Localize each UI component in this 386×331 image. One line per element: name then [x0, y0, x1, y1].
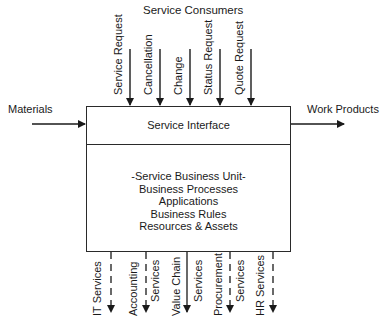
unit-line-applications: Applications	[87, 195, 290, 208]
service-business-unit-diagram: Service Consumers Materials Work Product…	[0, 0, 386, 331]
change-label: Change	[172, 56, 184, 95]
service-business-unit-box: Service Interface -Service Business Unit…	[86, 106, 291, 252]
work-products-label: Work Products	[307, 103, 379, 115]
hr-services-label: HR Services	[254, 255, 266, 316]
unit-line-title: -Service Business Unit-	[87, 170, 290, 183]
materials-label: Materials	[8, 103, 53, 115]
unit-line-rules: Business Rules	[87, 208, 290, 221]
business-unit-contents: -Service Business Unit- Business Process…	[87, 170, 290, 233]
service-consumers-title: Service Consumers	[143, 4, 243, 16]
interface-divider	[87, 144, 290, 145]
status-request-label: Status Request	[202, 20, 214, 95]
procurement-services-label: Services	[234, 260, 246, 302]
accounting-label: Accounting	[127, 262, 139, 316]
quote-request-label: Quote Request	[233, 21, 245, 95]
service-interface-label: Service Interface	[87, 119, 290, 131]
it-services-label: IT Services	[91, 261, 103, 316]
unit-line-resources: Resources & Assets	[87, 220, 290, 233]
unit-line-processes: Business Processes	[87, 183, 290, 196]
service-request-label: Service Request	[112, 14, 124, 95]
value-chain-label: Value Chain	[170, 257, 182, 316]
cancellation-label: Cancellation	[142, 34, 154, 95]
procurement-label: Procurement	[212, 253, 224, 316]
value-chain-services-label: Services	[192, 260, 204, 302]
accounting-services-label: Services	[149, 260, 161, 302]
